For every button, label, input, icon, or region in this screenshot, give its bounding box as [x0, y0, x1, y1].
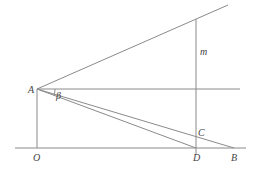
label-o: O: [33, 152, 40, 163]
label-m: m: [200, 46, 207, 57]
geometry-diagram: A β O D B C m: [0, 0, 260, 172]
label-d: D: [192, 152, 201, 163]
label-a: A: [27, 84, 35, 95]
label-c: C: [198, 127, 205, 138]
label-b: B: [231, 152, 237, 163]
segment-ab: [37, 89, 234, 148]
label-beta: β: [55, 90, 61, 101]
